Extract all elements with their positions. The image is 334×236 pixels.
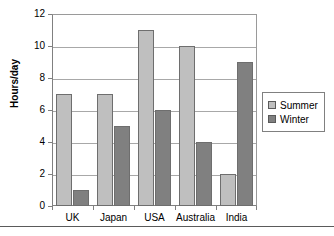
x-tick-mark bbox=[216, 206, 217, 210]
y-axis-title: Hours/day bbox=[9, 42, 20, 126]
chart-legend: Summer Winter bbox=[262, 92, 325, 132]
legend-label-winter: Winter bbox=[280, 114, 309, 125]
x-tick-label-uk: UK bbox=[66, 212, 80, 223]
y-tick-label: 8 bbox=[39, 73, 45, 83]
bar-japan-summer[interactable] bbox=[97, 94, 113, 206]
bar-group bbox=[56, 14, 89, 206]
y-tick-label: 2 bbox=[39, 169, 45, 179]
bar-group bbox=[97, 14, 130, 206]
y-tick-label: 6 bbox=[39, 105, 45, 115]
x-tick-label-japan: Japan bbox=[100, 212, 127, 223]
bar-usa-summer[interactable] bbox=[138, 30, 154, 206]
x-tick-mark bbox=[93, 206, 94, 210]
x-tick-mark bbox=[134, 206, 135, 210]
legend-item-winter[interactable]: Winter bbox=[268, 112, 318, 126]
chart-figure: Hours/day 024681012 UKJapanUSAAustraliaI… bbox=[0, 0, 334, 236]
bar-group bbox=[138, 14, 171, 206]
bar-uk-winter[interactable] bbox=[73, 190, 89, 206]
bar-uk-summer[interactable] bbox=[56, 94, 72, 206]
x-tick-label-usa: USA bbox=[144, 212, 165, 223]
bar-group bbox=[220, 14, 253, 206]
legend-item-summer[interactable]: Summer bbox=[268, 98, 318, 112]
bar-australia-winter[interactable] bbox=[196, 142, 212, 206]
y-tick-label: 10 bbox=[34, 41, 45, 51]
footer-divider bbox=[0, 226, 334, 227]
bar-japan-winter[interactable] bbox=[114, 126, 130, 206]
x-tick-mark bbox=[52, 206, 53, 210]
x-tick-label-australia: Australia bbox=[176, 212, 215, 223]
y-tick-label: 4 bbox=[39, 137, 45, 147]
x-tick-mark bbox=[175, 206, 176, 210]
bar-india-summer[interactable] bbox=[220, 174, 236, 206]
legend-swatch-winter-icon bbox=[268, 115, 276, 123]
x-tick-mark bbox=[256, 206, 257, 210]
y-tick-label: 0 bbox=[39, 201, 45, 211]
x-tick-label-india: India bbox=[226, 212, 248, 223]
bar-india-winter[interactable] bbox=[237, 62, 253, 206]
y-axis: Hours/day 024681012 bbox=[0, 0, 52, 208]
x-axis: UKJapanUSAAustraliaIndia bbox=[52, 206, 257, 232]
y-tick-label: 12 bbox=[34, 9, 45, 19]
bar-layer bbox=[52, 14, 257, 206]
legend-label-summer: Summer bbox=[280, 100, 318, 111]
legend-swatch-summer-icon bbox=[268, 101, 276, 109]
bar-australia-summer[interactable] bbox=[179, 46, 195, 206]
bar-group bbox=[179, 14, 212, 206]
bar-usa-winter[interactable] bbox=[155, 110, 171, 206]
